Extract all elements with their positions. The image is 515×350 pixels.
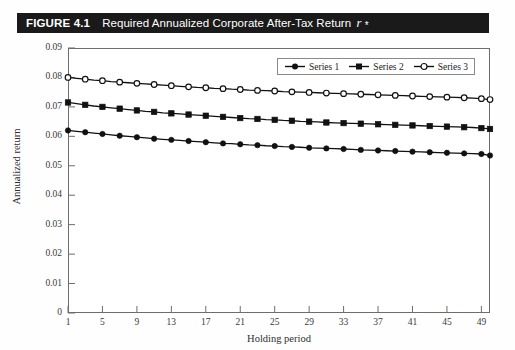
x-axis-title: Holding period xyxy=(68,333,490,344)
figure-title-bar: FIGURE 4.1 Required Annualized Corporate… xyxy=(17,13,489,33)
x-axis-tick-label: 25 xyxy=(262,317,288,327)
figure-number: FIGURE 4.1 xyxy=(26,17,90,29)
filled-square-marker xyxy=(487,126,492,131)
filled-circle-marker xyxy=(65,128,70,133)
filled-circle-marker xyxy=(487,153,492,158)
x-axis-tick-label: 33 xyxy=(331,317,357,327)
series-line xyxy=(68,130,490,155)
filled-circle-marker xyxy=(83,130,88,135)
x-axis-tick-label: 49 xyxy=(468,317,494,327)
filled-circle-marker xyxy=(375,148,380,153)
filled-square-marker xyxy=(306,119,311,124)
x-axis-tick-label: 9 xyxy=(124,317,150,327)
y-axis-title: Annualized return xyxy=(11,107,22,227)
open-circle-marker xyxy=(237,87,243,93)
y-axis-tick-label: 0.01 xyxy=(24,278,62,288)
filled-square-marker xyxy=(410,123,415,128)
filled-circle-marker xyxy=(169,137,174,142)
open-circle-marker xyxy=(341,91,347,97)
x-axis-tick-label: 29 xyxy=(296,317,322,327)
filled-circle-marker xyxy=(324,146,329,151)
open-circle-marker xyxy=(487,97,493,103)
legend-entry-1[interactable]: Series 1 xyxy=(284,61,339,72)
y-axis-tick-label: 0 xyxy=(24,307,62,317)
filled-square-marker xyxy=(220,114,225,119)
filled-square-marker xyxy=(356,64,362,70)
filled-square-marker xyxy=(151,109,156,114)
filled-circle-marker xyxy=(410,149,415,154)
open-circle-marker xyxy=(479,96,485,102)
x-axis-tick-label: 45 xyxy=(434,317,460,327)
open-circle-marker xyxy=(203,85,209,91)
open-circle-marker xyxy=(289,89,295,95)
y-axis-tick-label: 0.09 xyxy=(24,42,62,52)
filled-circle-marker xyxy=(100,131,105,136)
y-axis-tick-label: 0.05 xyxy=(24,160,62,170)
filled-circle-marker xyxy=(284,61,306,72)
filled-square-marker xyxy=(272,117,277,122)
filled-circle-marker xyxy=(238,142,243,147)
x-axis-tick-label: 1 xyxy=(55,317,81,327)
filled-circle-marker xyxy=(134,135,139,140)
filled-circle-marker xyxy=(255,142,260,147)
legend-label: Series 2 xyxy=(373,62,403,72)
legend-label: Series 1 xyxy=(309,62,339,72)
series-1 xyxy=(65,128,492,158)
open-circle-marker xyxy=(100,78,106,84)
figure-caption-text: Required Annualized Corporate After-Tax … xyxy=(102,17,351,29)
filled-square-marker xyxy=(289,118,294,123)
filled-square-marker xyxy=(134,108,139,113)
filled-square-marker xyxy=(348,61,370,72)
open-circle-marker xyxy=(186,84,192,90)
chart-canvas xyxy=(0,33,515,350)
open-circle-marker xyxy=(117,79,123,85)
filled-circle-marker xyxy=(292,64,298,70)
x-axis-tick-label: 37 xyxy=(365,317,391,327)
open-circle-marker xyxy=(461,95,467,101)
open-circle-marker xyxy=(444,94,450,100)
x-axis-tick-label: 41 xyxy=(399,317,425,327)
figure-caption: Required Annualized Corporate After-Tax … xyxy=(102,16,369,31)
legend-entry-3[interactable]: Series 3 xyxy=(413,61,468,72)
open-circle-marker xyxy=(375,92,381,98)
y-axis-tick-label: 0.03 xyxy=(24,219,62,229)
filled-circle-marker xyxy=(461,151,466,156)
filled-square-marker xyxy=(358,121,363,126)
open-circle-marker xyxy=(306,90,312,96)
filled-square-marker xyxy=(117,106,122,111)
filled-square-marker xyxy=(461,125,466,130)
filled-square-marker xyxy=(100,104,105,109)
filled-circle-marker xyxy=(289,144,294,149)
filled-circle-marker xyxy=(479,151,484,156)
x-axis-tick-label: 21 xyxy=(227,317,253,327)
filled-circle-marker xyxy=(151,136,156,141)
filled-square-marker xyxy=(324,120,329,125)
filled-circle-marker xyxy=(393,148,398,153)
filled-square-marker xyxy=(255,116,260,121)
filled-circle-marker xyxy=(427,150,432,155)
chart: 00.010.020.030.040.050.060.070.080.09 15… xyxy=(0,33,515,350)
x-axis-tick-label: 5 xyxy=(89,317,115,327)
open-circle-marker xyxy=(272,88,278,94)
x-axis-tick-label: 13 xyxy=(158,317,184,327)
legend-label: Series 3 xyxy=(438,62,468,72)
filled-square-marker xyxy=(186,112,191,117)
legend-entry-2[interactable]: Series 2 xyxy=(348,61,403,72)
filled-circle-marker xyxy=(186,138,191,143)
y-axis-tick-label: 0.07 xyxy=(24,101,62,111)
filled-square-marker xyxy=(427,123,432,128)
filled-circle-marker xyxy=(306,145,311,150)
filled-square-marker xyxy=(203,113,208,118)
filled-square-marker xyxy=(341,120,346,125)
open-circle-marker xyxy=(358,91,364,97)
filled-square-marker xyxy=(238,115,243,120)
filled-circle-marker xyxy=(341,146,346,151)
filled-square-marker xyxy=(444,124,449,129)
filled-square-marker xyxy=(375,122,380,127)
data-series-group xyxy=(65,75,493,159)
open-circle-marker xyxy=(220,86,226,92)
open-circle-marker xyxy=(169,83,175,89)
open-circle-marker xyxy=(134,81,140,87)
x-axis-tick-label: 17 xyxy=(193,317,219,327)
y-axis-tick-label: 0.06 xyxy=(24,130,62,140)
